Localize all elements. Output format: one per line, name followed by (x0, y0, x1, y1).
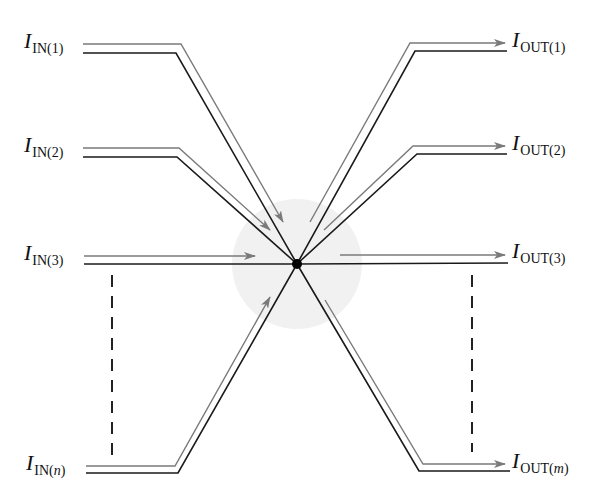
label-symbol: I (24, 28, 31, 53)
arrow-in-2 (83, 148, 270, 230)
arrow-in-n (86, 297, 270, 466)
label-symbol: I (24, 240, 31, 265)
label-subscript: OUT(1) (520, 40, 565, 55)
label-subscript: OUT(3) (520, 251, 565, 266)
arrow-out-2 (324, 146, 505, 230)
label-i-in-n: IIN(n) (26, 452, 65, 474)
subscript-suffix: ) (564, 461, 569, 476)
label-symbol: I (26, 450, 33, 475)
label-i-in-3: IIN(3) (24, 242, 63, 264)
label-subscript: IN(3) (32, 253, 63, 268)
label-symbol: I (24, 132, 31, 157)
label-symbol: I (512, 27, 519, 52)
junction-node (292, 259, 302, 269)
subscript-suffix: ) (61, 463, 66, 478)
label-subscript: IN(2) (32, 145, 63, 160)
label-i-out-2: IOUT(2) (512, 132, 565, 154)
label-subscript: OUT(2) (520, 143, 565, 158)
label-i-out-1: IOUT(1) (512, 29, 565, 51)
label-symbol: I (512, 130, 519, 155)
label-subscript: IN(1) (32, 41, 63, 56)
label-symbol: I (512, 448, 519, 473)
label-subscript: IN(n) (34, 463, 65, 478)
label-i-in-1: IIN(1) (24, 30, 63, 52)
arrow-out-1 (310, 43, 505, 222)
subscript-variable: n (54, 463, 61, 478)
label-subscript: OUT(m) (520, 461, 568, 476)
label-i-out-3: IOUT(3) (512, 240, 565, 262)
label-i-in-2: IIN(2) (24, 134, 63, 156)
subscript-prefix: OUT( (520, 461, 553, 476)
subscript-variable: m (554, 461, 564, 476)
label-symbol: I (512, 238, 519, 263)
arrow-out-m (325, 300, 505, 464)
wire-out-3 (297, 263, 508, 264)
subscript-prefix: IN( (34, 463, 53, 478)
label-i-out-m: IOUT(m) (512, 450, 569, 472)
arrow-in-1 (83, 44, 283, 222)
